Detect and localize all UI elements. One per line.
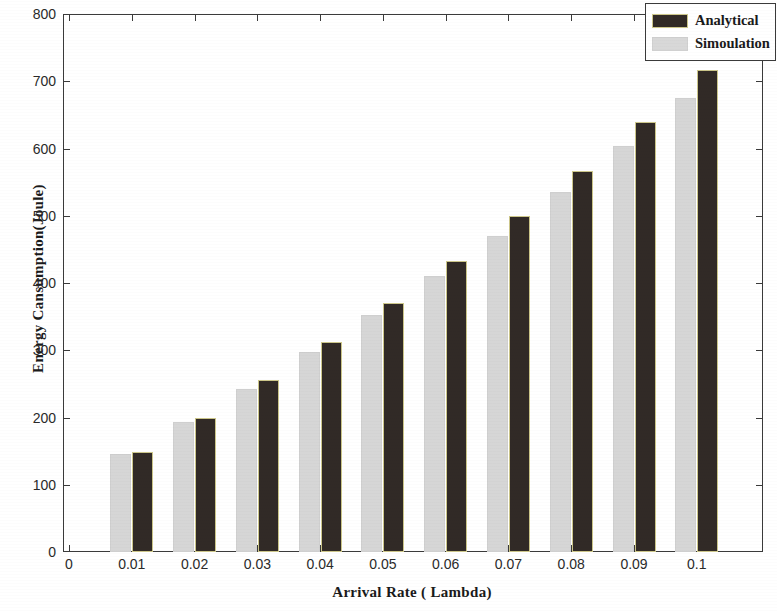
y-tick-label: 800 bbox=[16, 6, 56, 22]
y-tick-mark bbox=[63, 485, 70, 486]
x-tick-label: 0.02 bbox=[165, 556, 225, 572]
x-tick-label: 0.09 bbox=[604, 556, 664, 572]
y-tick-label: 100 bbox=[16, 477, 56, 493]
bar-simoulation bbox=[299, 352, 320, 552]
y-tick-mark-right bbox=[756, 149, 763, 150]
x-tick-mark-top bbox=[383, 14, 384, 21]
x-tick-label: 0.04 bbox=[290, 556, 350, 572]
y-tick-mark-right bbox=[756, 418, 763, 419]
y-tick-label: 600 bbox=[16, 141, 56, 157]
x-tick-mark-top bbox=[320, 14, 321, 21]
legend-entry-analytical: Analytical bbox=[652, 9, 771, 32]
y-tick-label: 500 bbox=[16, 208, 56, 224]
x-tick-mark-top bbox=[508, 14, 509, 21]
x-tick-label: 0.08 bbox=[541, 556, 601, 572]
bar-simoulation bbox=[173, 422, 194, 552]
x-tick-label: 0.01 bbox=[102, 556, 162, 572]
x-tick-mark-top bbox=[69, 14, 70, 21]
y-tick-label: 400 bbox=[16, 275, 56, 291]
bar-analytical bbox=[509, 216, 530, 552]
bar-simoulation bbox=[613, 146, 634, 552]
y-tick-mark-right bbox=[756, 283, 763, 284]
legend-entry-simoulation: Simoulation bbox=[652, 32, 771, 55]
legend-label-simoulation: Simoulation bbox=[695, 35, 770, 52]
x-tick-label: 0.05 bbox=[353, 556, 413, 572]
y-tick-mark bbox=[63, 216, 70, 217]
bar-simoulation bbox=[110, 454, 131, 552]
y-tick-mark bbox=[63, 350, 70, 351]
bar-chart-figure: Energy Cansumption In All Sensor Nodes E… bbox=[0, 0, 777, 611]
x-axis-title: Arrival Rate ( Lambda) bbox=[62, 584, 762, 601]
bar-analytical bbox=[321, 342, 342, 552]
y-tick-label: 200 bbox=[16, 410, 56, 426]
bar-analytical bbox=[572, 171, 593, 552]
y-tick-mark-right bbox=[756, 81, 763, 82]
y-tick-mark bbox=[63, 81, 70, 82]
bar-simoulation bbox=[424, 276, 445, 552]
x-tick-label: 0.1 bbox=[667, 556, 727, 572]
bar-simoulation bbox=[675, 98, 696, 552]
x-tick-mark-top bbox=[571, 14, 572, 21]
x-tick-mark-top bbox=[446, 14, 447, 21]
y-tick-mark-right bbox=[756, 485, 763, 486]
plot-area bbox=[63, 14, 763, 552]
x-tick-label: 0.03 bbox=[227, 556, 287, 572]
bar-analytical bbox=[446, 261, 467, 552]
y-tick-label: 300 bbox=[16, 342, 56, 358]
y-tick-mark bbox=[63, 418, 70, 419]
y-tick-mark-right bbox=[756, 350, 763, 351]
y-tick-mark-right bbox=[756, 216, 763, 217]
y-tick-mark bbox=[63, 283, 70, 284]
x-tick-mark-top bbox=[195, 14, 196, 21]
bar-analytical bbox=[697, 70, 718, 552]
bar-analytical bbox=[195, 418, 216, 553]
x-tick-mark bbox=[69, 545, 70, 552]
legend-swatch-simoulation bbox=[652, 37, 688, 51]
x-tick-label: 0 bbox=[39, 556, 99, 572]
bar-simoulation bbox=[361, 315, 382, 552]
x-tick-mark-top bbox=[634, 14, 635, 21]
y-tick-label: 700 bbox=[16, 73, 56, 89]
bar-analytical bbox=[132, 452, 153, 552]
bar-simoulation bbox=[487, 236, 508, 552]
legend-swatch-analytical bbox=[652, 14, 688, 28]
x-tick-label: 0.06 bbox=[416, 556, 476, 572]
legend-label-analytical: Analytical bbox=[695, 12, 759, 29]
bar-analytical bbox=[383, 303, 404, 552]
y-tick-mark bbox=[63, 149, 70, 150]
x-tick-label: 0.07 bbox=[478, 556, 538, 572]
bar-analytical bbox=[258, 380, 279, 552]
x-tick-mark-top bbox=[132, 14, 133, 21]
bar-simoulation bbox=[550, 192, 571, 552]
bar-simoulation bbox=[236, 389, 257, 552]
x-tick-mark-top bbox=[257, 14, 258, 21]
chart-legend: Analytical Simoulation bbox=[645, 3, 776, 61]
bar-analytical bbox=[635, 122, 656, 552]
